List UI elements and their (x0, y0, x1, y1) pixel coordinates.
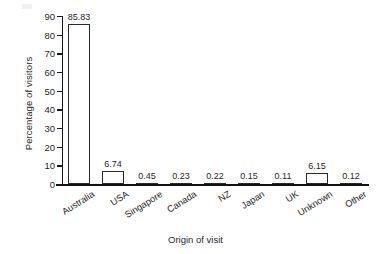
y-tick-40 (57, 109, 62, 110)
y-tick-label-40: 40 (44, 104, 55, 115)
bar-japan (238, 183, 260, 184)
y-axis-title: Percentage of visitors (23, 24, 34, 184)
category-label-uk: UK (284, 189, 300, 204)
y-tick-label-70: 70 (44, 48, 55, 59)
value-label-usa: 6.74 (104, 159, 122, 169)
y-tick-60 (57, 72, 62, 73)
category-label-japan: Japan (240, 189, 267, 211)
value-label-other: 0.12 (342, 171, 360, 181)
bar-uk (272, 183, 294, 184)
scan-artifact (22, 4, 32, 9)
y-tick-20 (57, 147, 62, 148)
bar-singapore (136, 183, 158, 184)
y-tick-80 (57, 35, 62, 36)
bar-canada (170, 183, 192, 184)
value-label-australia: 85.83 (68, 12, 91, 22)
bar-nz (204, 183, 226, 184)
category-label-other: Other (343, 189, 368, 210)
x-axis-line (56, 184, 369, 186)
bar-australia (68, 24, 90, 184)
y-tick-label-10: 10 (44, 160, 55, 171)
y-tick-label-50: 50 (44, 85, 55, 96)
y-tick-30 (57, 128, 62, 129)
category-label-canada: Canada (165, 189, 198, 215)
y-tick-0 (57, 184, 62, 185)
bar-unknown (306, 173, 328, 184)
y-tick-10 (57, 165, 62, 166)
bar-other (340, 183, 362, 184)
category-label-nz: NZ (216, 189, 232, 204)
category-label-usa: USA (109, 189, 131, 208)
category-label-singapore: Singapore (123, 189, 164, 220)
value-label-nz: 0.22 (206, 171, 224, 181)
x-axis-title: Origin of visit (0, 234, 391, 245)
y-tick-label-80: 80 (44, 29, 55, 40)
category-label-australia: Australia (60, 189, 96, 217)
value-label-singapore: 0.45 (138, 171, 156, 181)
value-label-uk: 0.11 (275, 171, 292, 181)
value-label-canada: 0.23 (172, 171, 190, 181)
y-axis-line (62, 16, 63, 184)
category-label-unknown: Unknown (296, 189, 334, 218)
y-tick-90 (57, 16, 62, 17)
y-tick-label-0: 0 (50, 179, 55, 190)
plot-area: 0102030405060708090 85.836.740.450.230.2… (62, 16, 368, 184)
y-tick-label-60: 60 (44, 67, 55, 78)
value-label-japan: 0.15 (240, 171, 258, 181)
y-tick-50 (57, 91, 62, 92)
y-tick-label-30: 30 (44, 123, 55, 134)
y-tick-70 (57, 53, 62, 54)
value-label-unknown: 6.15 (308, 161, 326, 171)
bar-usa (102, 171, 124, 184)
bar-chart: Percentage of visitors 01020304050607080… (0, 0, 391, 254)
y-tick-label-20: 20 (44, 141, 55, 152)
y-tick-label-90: 90 (44, 11, 55, 22)
